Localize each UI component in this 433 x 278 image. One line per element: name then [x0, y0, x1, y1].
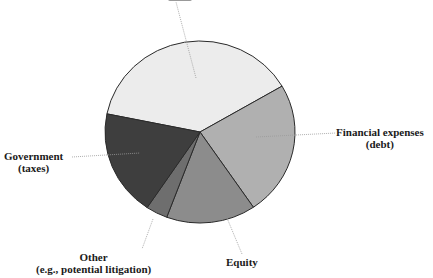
- pie-slices: [105, 41, 295, 223]
- label-line: Financial expenses: [336, 126, 424, 138]
- label-line: (debt): [336, 138, 424, 150]
- label-financial-expenses: Financial expenses (debt): [336, 126, 424, 150]
- top-label-cutoff: [168, 0, 192, 1]
- label-equity: Equity: [226, 256, 258, 268]
- label-line: Other: [36, 251, 151, 263]
- label-government: Government (taxes): [4, 150, 63, 174]
- leader-other: [142, 219, 153, 249]
- label-other: Other (e.g., potential litigation): [36, 251, 151, 275]
- label-line: Equity: [226, 256, 258, 268]
- label-line: Government: [4, 150, 63, 162]
- leader-equity: [227, 218, 242, 254]
- label-line: (e.g., potential litigation): [36, 263, 151, 275]
- label-line: (taxes): [4, 162, 63, 174]
